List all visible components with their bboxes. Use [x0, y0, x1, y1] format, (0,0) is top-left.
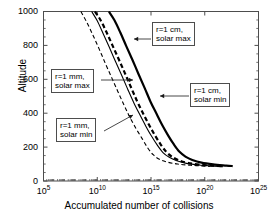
anno-r1cm-solar-max: r=1 cm, solar max	[152, 22, 195, 46]
x-tick-label: 1015	[134, 184, 168, 196]
y-tick-label: 400	[8, 108, 38, 118]
anno-line-2: solar max	[55, 81, 90, 91]
figure-container: Altitude Accumulated number of collision…	[0, 0, 278, 218]
y-tick-label: 1000	[8, 6, 38, 16]
x-axis-label: Accumulated number of collisions	[0, 200, 278, 211]
x-tick-label: 1020	[188, 184, 222, 196]
anno-line-1: r=1 mm,	[55, 72, 90, 82]
x-tick-label: 1010	[80, 184, 114, 196]
anno-r1mm-solar-max: r=1 mm, solar max	[51, 69, 94, 93]
y-tick-label: 600	[8, 74, 38, 84]
anno-line-1: r=1 mm,	[60, 121, 92, 131]
y-tick-label: 800	[8, 40, 38, 50]
arrow-r1mm-solar-max	[129, 78, 133, 83]
anno-r1cm-solar-min: r=1 cm, solar min	[190, 83, 230, 107]
anno-line-2: solar min	[60, 130, 92, 140]
anno-line-2: solar min	[194, 95, 226, 105]
arrow-r1cm-solar-max	[134, 37, 138, 42]
y-tick-label: 200	[8, 142, 38, 152]
anno-line-2: solar max	[156, 34, 191, 44]
x-tick-label: 1025	[242, 184, 276, 196]
x-tick-label: 105	[27, 184, 61, 196]
anno-r1mm-solar-min: r=1 mm, solar min	[56, 118, 96, 142]
anno-line-1: r=1 cm,	[156, 25, 191, 35]
anno-line-1: r=1 cm,	[194, 86, 226, 96]
arrow-r1cm-solar-min	[160, 94, 164, 99]
